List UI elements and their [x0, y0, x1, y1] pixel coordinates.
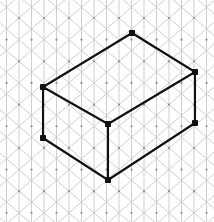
grid-dot [18, 104, 20, 106]
grid-dot [193, 17, 195, 19]
grid-dot [168, 60, 170, 62]
grid-dot [30, 39, 32, 41]
grid-dot [193, 190, 195, 192]
grid-dot [168, 17, 170, 19]
grid-dot [18, 147, 20, 149]
grid-dot [5, 168, 7, 170]
grid-dot [30, 212, 32, 214]
grid-dot [143, 147, 145, 149]
grid-dot [180, 39, 182, 41]
grid-dot [68, 104, 70, 106]
grid-dot [180, 125, 182, 127]
grid-dot [68, 147, 70, 149]
grid-dot [93, 147, 95, 149]
grid-dot [18, 17, 20, 19]
grid-dot [43, 17, 45, 19]
grid-dot [43, 190, 45, 192]
grid-dot [93, 104, 95, 106]
grid-dot [93, 17, 95, 19]
grid-dot [55, 82, 57, 84]
grid-dot [68, 190, 70, 192]
grid-dot [168, 104, 170, 106]
grid-dot [205, 82, 207, 84]
grid-dot [55, 39, 57, 41]
grid-dot [180, 82, 182, 84]
grid-dot [118, 17, 120, 19]
grid-dot [143, 60, 145, 62]
grid-dot [30, 82, 32, 84]
grid-dot [205, 39, 207, 41]
grid-dot [18, 190, 20, 192]
grid-dot [5, 82, 7, 84]
cuboid-vertex-marker [40, 135, 46, 141]
grid-dot [118, 147, 120, 149]
cuboid-vertex-marker [40, 84, 46, 90]
grid-dot [118, 60, 120, 62]
grid-dot [93, 190, 95, 192]
grid-dot [5, 212, 7, 214]
grid-dot [143, 190, 145, 192]
grid-dot [130, 212, 132, 214]
grid-dot [30, 168, 32, 170]
grid-dot [205, 212, 207, 214]
grid-dot [155, 212, 157, 214]
grid-dot [105, 39, 107, 41]
cuboid-vertex-marker [192, 120, 198, 126]
grid-dot [180, 168, 182, 170]
isometric-drawing-canvas [0, 0, 214, 222]
grid-dot [105, 212, 107, 214]
grid-dot [80, 39, 82, 41]
cuboid-vertex-marker [105, 177, 111, 183]
grid-dot [5, 39, 7, 41]
grid-dot [155, 82, 157, 84]
grid-dot [105, 82, 107, 84]
grid-dot [143, 17, 145, 19]
grid-dot [55, 212, 57, 214]
cuboid-vertex-marker [105, 121, 111, 127]
grid-dot [130, 168, 132, 170]
grid-dot [168, 147, 170, 149]
grid-dot [43, 60, 45, 62]
grid-dot [80, 212, 82, 214]
grid-dot [55, 125, 57, 127]
grid-dot [80, 125, 82, 127]
grid-dot [130, 39, 132, 41]
grid-dot [155, 125, 157, 127]
grid-dot [168, 190, 170, 192]
grid-dot [68, 17, 70, 19]
grid-dot [18, 60, 20, 62]
grid-dot [68, 60, 70, 62]
grid-dot [30, 125, 32, 127]
grid-dot [193, 147, 195, 149]
grid-dot [193, 60, 195, 62]
cuboid-vertex-marker [129, 30, 135, 36]
grid-dot [205, 125, 207, 127]
grid-dot [118, 104, 120, 106]
grid-dot [5, 125, 7, 127]
cuboid-vertex-marker [192, 69, 198, 75]
grid-dot [80, 82, 82, 84]
grid-dot [130, 82, 132, 84]
grid-dot [130, 125, 132, 127]
grid-dot [43, 147, 45, 149]
grid-dot [80, 168, 82, 170]
grid-dot [155, 168, 157, 170]
grid-dot [55, 168, 57, 170]
grid-dot [155, 39, 157, 41]
grid-dot [205, 168, 207, 170]
isometric-figure [0, 0, 214, 222]
grid-dot [180, 212, 182, 214]
grid-dot [118, 190, 120, 192]
grid-dot [93, 60, 95, 62]
